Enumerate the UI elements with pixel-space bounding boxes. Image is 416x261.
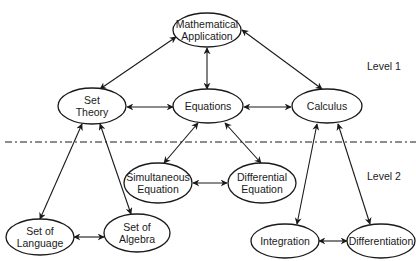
node-integration: Integration [251,224,319,258]
edge-set_theory-set_algebra [100,124,131,214]
node-set-theory: SetTheory [58,88,126,124]
concept-hierarchy-diagram: MathematicalApplicationSetTheoryEquation… [0,0,416,261]
node-set-language: Set ofLanguage [6,219,74,255]
level-label-2: Level 2 [367,170,401,182]
node-label: Set of [26,225,54,237]
node-set-algebra: Set ofAlgebra [104,214,170,252]
node-label: Set of [123,221,151,233]
node-label: Language [17,237,64,249]
edge-calculus-differentiation [338,124,370,224]
node-differentiation: Differentiation [347,224,415,258]
level-labels: Level 1Level 2 [367,60,401,182]
nodes: MathematicalApplicationSetTheoryEquation… [6,13,415,258]
edge-calculus-integration [297,124,317,224]
node-label: Simultaneous [126,171,190,183]
node-label: Equation [241,183,283,195]
node-label: Equation [137,183,179,195]
node-calculus: Calculus [292,89,362,123]
node-label: Mathematical [176,18,238,30]
edge-equations-simultaneous [164,123,198,163]
node-math-app: MathematicalApplication [173,13,241,47]
node-equations: Equations [173,89,243,123]
level-label-1: Level 1 [367,60,401,72]
node-simultaneous: SimultaneousEquation [124,163,192,203]
edge-set_theory-set_language [40,124,82,219]
node-label: Algebra [119,233,155,245]
node-label: Calculus [307,100,347,112]
node-label: Differential [237,171,287,183]
edge-set_theory-math_app [100,37,176,89]
node-label: Set [84,94,100,106]
node-label: Application [181,30,233,42]
node-label: Integration [260,235,310,247]
edge-calculus-math_app [242,30,322,89]
node-differential-eq: DifferentialEquation [228,163,296,203]
node-label: Differentiation [349,235,414,247]
edges [40,30,370,241]
node-label: Theory [76,106,109,118]
node-label: Equations [185,100,232,112]
edge-equations-differential_eq [225,123,261,163]
